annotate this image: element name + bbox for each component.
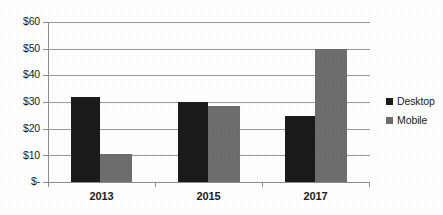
y-tick-label-30: $30 — [23, 96, 40, 107]
x-tick-mark-1 — [155, 182, 156, 187]
mobile-swatch-icon — [386, 117, 393, 124]
bar-chart: $60 $50 $40 $30 $20 $10 $- — [0, 0, 443, 215]
y-tick-label-60: $60 — [23, 16, 40, 27]
bar-mobile-2015[interactable] — [208, 106, 240, 182]
bar-desktop-2015[interactable] — [178, 102, 208, 182]
bar-desktop-2017[interactable] — [285, 116, 315, 182]
y-axis: $60 $50 $40 $30 $20 $10 $- — [0, 0, 46, 215]
gridline-60 — [48, 22, 370, 23]
x-tick-mark-start — [48, 182, 49, 187]
y-tick-label-0: $- — [31, 176, 40, 187]
x-axis: 2013 2015 2017 — [48, 190, 370, 210]
legend-label-desktop: Desktop — [397, 95, 435, 107]
desktop-swatch-icon — [386, 98, 393, 105]
legend-label-mobile: Mobile — [397, 114, 427, 126]
bar-desktop-2013[interactable] — [71, 97, 100, 182]
y-tick-label-20: $20 — [23, 123, 40, 134]
x-tick-mark-2 — [262, 182, 263, 187]
x-category-label-2017: 2017 — [262, 190, 369, 203]
bar-mobile-2017[interactable] — [315, 49, 347, 182]
legend-entry-mobile[interactable]: Mobile — [386, 112, 443, 128]
x-category-label-2013: 2013 — [48, 190, 155, 203]
y-tick-label-10: $10 — [23, 150, 40, 161]
x-tick-mark-end — [369, 182, 370, 187]
legend-entry-desktop[interactable]: Desktop — [386, 93, 443, 109]
y-tick-label-40: $40 — [23, 69, 40, 80]
gridline-baseline — [48, 182, 370, 183]
bar-mobile-2013[interactable] — [100, 154, 132, 182]
y-tick-label-50: $50 — [23, 43, 40, 54]
x-category-label-2015: 2015 — [155, 190, 262, 203]
plot-area — [48, 22, 370, 182]
chart-legend: Desktop Mobile — [386, 93, 443, 131]
